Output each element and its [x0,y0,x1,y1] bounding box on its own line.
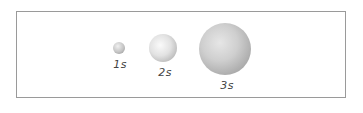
orbital-3s-sphere [199,23,251,75]
diagram-frame [16,11,346,98]
orbital-1s-sphere [113,42,125,54]
orbital-2s-label: 2s [158,66,172,79]
orbital-2s-sphere [149,34,177,62]
orbital-1s-label: 1s [113,58,127,71]
orbital-3s-label: 3s [220,79,234,92]
